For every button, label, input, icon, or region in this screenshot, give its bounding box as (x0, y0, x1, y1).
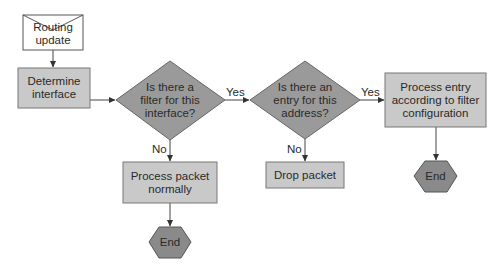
filter-decision-label: Is there a filter for this interface? (135, 81, 205, 120)
entry-no-label: No (287, 143, 302, 155)
entry-decision-label: Is there an entry for this address? (270, 81, 340, 120)
start-label: Routing update (31, 21, 75, 47)
drop-label: Drop packet (274, 169, 336, 182)
process-entry-node: Process entry according to filter config… (385, 73, 486, 127)
end2-node: End (414, 161, 457, 192)
determine-label: Determine interface (23, 75, 85, 101)
drop-node: Drop packet (266, 162, 344, 188)
filter-yes-label: Yes (226, 86, 245, 98)
process-normally-label: Process packet normally (127, 170, 213, 196)
connectors (53, 50, 436, 226)
entry-yes-label: Yes (361, 86, 380, 98)
process-entry-label: Process entry according to filter config… (388, 81, 484, 120)
filter-no-label: No (152, 143, 167, 155)
process-normally-node: Process packet normally (123, 162, 217, 203)
end2-label: End (425, 170, 445, 183)
end1-node: End (149, 227, 191, 258)
end1-label: End (160, 236, 180, 249)
entry-decision-node: Is there an entry for this address? (263, 70, 347, 130)
determine-node: Determine interface (18, 68, 90, 108)
filter-decision-node: Is there a filter for this interface? (128, 70, 212, 130)
start-node: Routing update (23, 17, 83, 50)
